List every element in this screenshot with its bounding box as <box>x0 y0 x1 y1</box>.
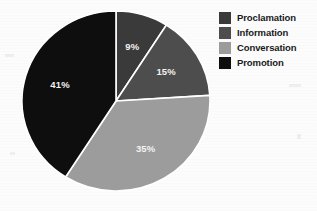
legend-color-swatch <box>219 12 231 24</box>
pie-plot-area: 9%15%35%41% <box>22 11 210 191</box>
legend-item[interactable]: Proclamation <box>219 10 315 25</box>
scan-artifact <box>297 134 301 139</box>
legend-color-swatch <box>219 42 231 54</box>
legend-color-swatch <box>219 57 231 69</box>
scan-artifact <box>10 152 15 155</box>
chart-legend: ProclamationInformationConversationPromo… <box>219 10 315 70</box>
legend-item-label: Information <box>237 27 288 38</box>
legend-item-label: Promotion <box>237 57 284 68</box>
scan-artifact <box>5 54 14 57</box>
pie-slice-value-label: 35% <box>136 143 156 154</box>
legend-item[interactable]: Conversation <box>219 40 315 55</box>
pie-chart-figure: 9%15%35%41% ProclamationInformationConve… <box>0 0 317 211</box>
legend-item-label: Proclamation <box>237 12 296 23</box>
pie-slice-value-label: 15% <box>156 66 176 77</box>
pie-slice-value-label: 41% <box>50 79 70 90</box>
pie-slices <box>22 11 210 191</box>
scan-artifact <box>289 84 301 87</box>
legend-item[interactable]: Promotion <box>219 55 315 70</box>
pie-svg: 9%15%35%41% <box>22 11 210 191</box>
legend-item[interactable]: Information <box>219 25 315 40</box>
legend-item-label: Conversation <box>237 42 297 53</box>
pie-slice-value-label: 9% <box>125 41 139 52</box>
legend-color-swatch <box>219 27 231 39</box>
